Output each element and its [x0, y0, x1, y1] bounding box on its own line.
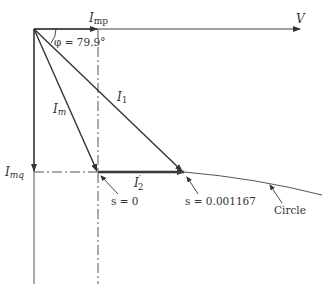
i-mq-label: Imq: [4, 165, 24, 180]
slip-zero-label: s = 0: [111, 195, 139, 207]
phasor-diagram: V Imp φ = 79.9° Im I1 Imq I′2 s = 0 s = …: [0, 0, 332, 293]
i-2-prime-label: I′2: [133, 174, 144, 192]
circle-locus: [98, 172, 322, 195]
phi-label: φ = 79.9°: [54, 36, 105, 48]
i-m-phasor: [34, 29, 97, 171]
i-1-phasor: [34, 29, 182, 171]
circle-label: Circle: [274, 204, 306, 216]
voltage-label: V: [296, 12, 306, 26]
i-1-label: I1: [116, 90, 127, 105]
slip-value-leader: [187, 177, 198, 194]
i-m-label: Im: [52, 102, 66, 117]
circle-leader: [270, 185, 282, 203]
slip-zero-leader: [101, 176, 118, 194]
i-mp-label: Imp: [88, 11, 108, 26]
slip-value-label: s = 0.001167: [185, 195, 256, 207]
